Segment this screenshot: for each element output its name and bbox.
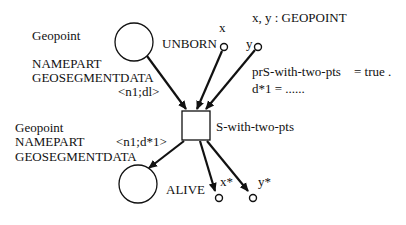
output-arc-label: <n1;d*1>: [116, 135, 167, 149]
arc-x-to-transition: [197, 51, 222, 109]
place-unborn[interactable]: [115, 23, 153, 61]
predicate-value: = true .: [354, 65, 391, 79]
unborn-type-geopoint: Geopoint: [32, 29, 80, 43]
place-y-star-label: y*: [258, 175, 271, 189]
place-alive[interactable]: [119, 165, 157, 203]
alive-type-namepart: NAMEPART: [15, 135, 85, 149]
variables-declaration: x, y : GEOPOINT: [252, 11, 347, 25]
unborn-type-geosegmentdata: GEOSEGMENTDATA: [32, 71, 154, 85]
alive-type-geosegmentdata: GEOSEGMENTDATA: [15, 150, 137, 164]
place-y-label: y: [246, 37, 253, 51]
assignment-declaration: d*1 = ......: [252, 82, 305, 96]
unborn-type-namepart: NAMEPART: [32, 57, 102, 71]
place-y[interactable]: [255, 44, 262, 51]
transition-label: S-with-two-pts: [216, 120, 294, 134]
place-alive-label: ALIVE: [166, 183, 205, 197]
place-y-star[interactable]: [250, 195, 257, 202]
predicate-name: prS-with-two-pts: [252, 65, 341, 79]
arc-y-to-transition: [206, 50, 255, 109]
transition-s-with-two-pts[interactable]: [182, 111, 210, 140]
input-arc-label: <n1;dl>: [118, 85, 159, 99]
place-x-star[interactable]: [216, 195, 223, 202]
place-unborn-label: UNBORN: [162, 37, 217, 51]
place-x-star-label: x*: [220, 175, 233, 189]
place-x[interactable]: [221, 44, 228, 51]
alive-type-geopoint: Geopoint: [15, 121, 63, 135]
place-x-label: x: [219, 21, 226, 35]
